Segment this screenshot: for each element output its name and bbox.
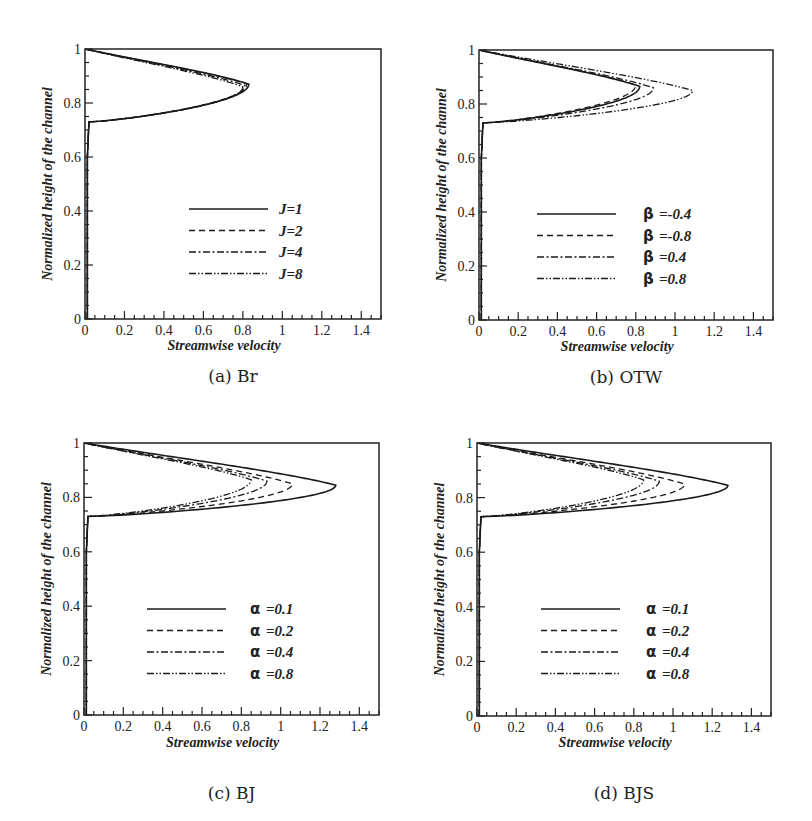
x-tick-label: 0.6 xyxy=(193,719,211,734)
legend-symbol: α xyxy=(250,643,260,661)
y-tick-label: 0.8 xyxy=(64,96,82,111)
legend-label: =0.4 xyxy=(266,644,294,660)
y-tick-label: 1 xyxy=(468,43,475,58)
x-tick-label: 0.2 xyxy=(116,323,134,338)
y-axis-title: Normalized height of the channel xyxy=(432,483,447,678)
legend-symbol: β xyxy=(643,270,654,288)
y-axis-title: Normalized height of the channel xyxy=(434,88,449,283)
y-tick-label: 0.4 xyxy=(63,599,81,614)
y-axis-title: Normalized height of the channel xyxy=(39,482,54,677)
y-tick-label: 0.4 xyxy=(456,600,474,615)
x-tick-label: 1 xyxy=(670,720,677,735)
y-tick-label: 0 xyxy=(74,312,81,327)
x-tick-label: 0.4 xyxy=(547,720,565,735)
x-tick-label: 0 xyxy=(474,720,481,735)
x-tick-label: 0.8 xyxy=(627,324,645,339)
x-tick-label: 1.2 xyxy=(703,720,721,735)
panel-caption: (b) OTW xyxy=(590,367,663,387)
legend-symbol: α xyxy=(646,622,656,640)
x-tick-label: 0 xyxy=(476,324,483,339)
y-tick-label: 0.6 xyxy=(63,545,81,560)
y-tick-label: 0 xyxy=(466,709,473,724)
y-tick-label: 0.6 xyxy=(64,150,82,165)
x-axis-title: Streamwise velocity xyxy=(559,735,673,750)
legend-label: =-0.4 xyxy=(659,206,692,222)
legend-symbol: α xyxy=(646,600,656,618)
legend-symbol: α xyxy=(250,665,260,683)
legend-symbol: β xyxy=(643,227,654,245)
x-axis-title: Streamwise velocity xyxy=(561,339,675,354)
y-tick-label: 0.6 xyxy=(456,545,474,560)
x-tick-label: 1.4 xyxy=(353,323,371,338)
legend-label: =0.2 xyxy=(662,623,690,639)
y-tick-label: 0.8 xyxy=(63,490,81,505)
figure-canvas: 00.20.40.60.811.21.400.20.40.60.81Stream… xyxy=(0,0,812,821)
x-tick-label: 0.8 xyxy=(625,720,643,735)
x-tick-label: 1.4 xyxy=(745,324,763,339)
y-tick-label: 0 xyxy=(468,313,475,328)
legend-label: J=4 xyxy=(278,244,303,260)
legend-label: J=1 xyxy=(278,201,303,217)
y-tick-label: 0.6 xyxy=(458,151,476,166)
legend-symbol: α xyxy=(646,665,656,683)
x-tick-label: 0.2 xyxy=(115,719,133,734)
ghost-background-text xyxy=(0,0,812,821)
legend-label: =0.4 xyxy=(659,249,687,265)
y-tick-label: 0.2 xyxy=(64,258,82,273)
x-tick-label: 1.4 xyxy=(351,719,369,734)
legend-symbol: β xyxy=(643,248,654,266)
legend-label: =0.1 xyxy=(662,601,689,617)
legend-label: J=8 xyxy=(278,266,303,282)
legend-label: =0.1 xyxy=(266,601,293,617)
x-tick-label: 0.4 xyxy=(155,323,173,338)
y-tick-label: 0.2 xyxy=(63,654,81,669)
y-tick-label: 0.4 xyxy=(64,204,82,219)
x-tick-label: 0 xyxy=(82,323,89,338)
x-tick-label: 0.6 xyxy=(586,720,604,735)
x-tick-label: 0.2 xyxy=(509,324,527,339)
legend-label: J=2 xyxy=(278,223,303,239)
legend-symbol: β xyxy=(643,205,654,223)
legend-label: =0.8 xyxy=(266,666,294,682)
x-tick-label: 0.6 xyxy=(588,324,606,339)
x-tick-label: 0.2 xyxy=(507,720,525,735)
panel-caption: (d) BJS xyxy=(594,783,655,803)
x-axis-title: Streamwise velocity xyxy=(168,338,282,353)
x-tick-label: 0 xyxy=(81,719,88,734)
y-tick-label: 1 xyxy=(73,436,80,451)
legend-symbol: α xyxy=(646,643,656,661)
x-tick-label: 0.4 xyxy=(549,324,567,339)
x-tick-label: 1.4 xyxy=(743,720,761,735)
x-tick-label: 1 xyxy=(672,324,679,339)
x-axis-title: Streamwise velocity xyxy=(166,735,280,750)
panel-caption: (c) BJ xyxy=(208,783,256,803)
x-tick-label: 0.4 xyxy=(154,719,172,734)
y-tick-label: 0 xyxy=(73,708,80,723)
legend-label: =0.4 xyxy=(662,644,690,660)
legend-label: =0.2 xyxy=(266,623,294,639)
legend-label: =-0.8 xyxy=(659,228,692,244)
x-tick-label: 1.2 xyxy=(705,324,723,339)
y-tick-label: 0.8 xyxy=(456,491,474,506)
x-tick-label: 1.2 xyxy=(313,323,331,338)
x-tick-label: 1 xyxy=(279,323,286,338)
x-tick-label: 0.8 xyxy=(233,719,251,734)
legend-label: =0.8 xyxy=(659,271,687,287)
legend-symbol: α xyxy=(250,600,260,618)
y-tick-label: 0.8 xyxy=(458,97,476,112)
x-tick-label: 1.2 xyxy=(311,719,329,734)
y-tick-label: 0.2 xyxy=(458,259,476,274)
y-tick-label: 0.2 xyxy=(456,654,474,669)
x-tick-label: 1 xyxy=(277,719,284,734)
x-tick-label: 0.6 xyxy=(195,323,213,338)
y-tick-label: 1 xyxy=(466,436,473,451)
panel-caption: (a) Br xyxy=(208,366,258,386)
legend-label: =0.8 xyxy=(662,666,690,682)
x-tick-label: 0.8 xyxy=(234,323,252,338)
y-axis-title: Normalized height of the channel xyxy=(40,87,55,282)
y-tick-label: 1 xyxy=(74,42,81,57)
y-tick-label: 0.4 xyxy=(458,205,476,220)
legend-symbol: α xyxy=(250,622,260,640)
